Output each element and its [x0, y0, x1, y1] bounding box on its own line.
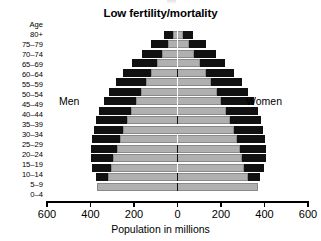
men-inner-bar	[127, 116, 177, 124]
x-tick	[133, 201, 134, 207]
men-inner-bar	[141, 88, 178, 96]
men-inner-bar	[162, 50, 177, 58]
x-tick	[220, 201, 221, 207]
women-inner-bar	[178, 88, 217, 96]
x-tick	[46, 201, 47, 207]
population-pyramid-chart: Low fertility/mortality Age80+75–7970–74…	[0, 0, 321, 241]
age-tick-label: 50–54	[0, 90, 46, 100]
x-tick-label: 400	[71, 208, 111, 220]
x-tick-label: 600	[288, 208, 321, 220]
women-inner-bar	[178, 183, 259, 191]
pyramid-row	[47, 144, 308, 154]
pyramid-row	[47, 68, 308, 78]
pyramid-row	[47, 182, 308, 192]
pyramid-row	[47, 49, 308, 59]
women-inner-bar	[178, 126, 234, 134]
women-inner-bar	[178, 164, 245, 172]
pyramid-row	[47, 173, 308, 183]
age-tick-label: 80+	[0, 30, 46, 40]
age-tick-label: 70–74	[0, 50, 46, 60]
x-tick	[264, 201, 265, 207]
men-inner-bar	[113, 154, 177, 162]
pyramid-row	[47, 106, 308, 116]
age-tick-label: 30–34	[0, 130, 46, 140]
men-inner-bar	[111, 164, 177, 172]
chart-title: Low fertility/mortality	[0, 7, 321, 19]
women-inner-bar	[178, 145, 240, 153]
women-inner-bar	[178, 31, 184, 39]
women-inner-bar	[178, 40, 189, 48]
age-tick-label: 25–29	[0, 140, 46, 150]
x-tick-label: 200	[114, 208, 154, 220]
x-tick	[90, 201, 91, 207]
pyramid-row	[47, 154, 308, 164]
women-inner-bar	[178, 69, 206, 77]
men-inner-bar	[117, 145, 178, 153]
cropped-edge-artifact	[167, 0, 176, 4]
age-axis-title: Age	[0, 20, 46, 30]
women-inner-bar	[178, 154, 243, 162]
women-inner-bar	[178, 97, 222, 105]
age-axis-labels: Age80+75–7970–7465–6960–6455–5950–5445–4…	[0, 20, 46, 200]
pyramid-row	[47, 40, 308, 50]
women-inner-bar	[178, 59, 201, 67]
men-inner-bar	[136, 97, 178, 105]
x-tick	[307, 201, 308, 207]
women-inner-bar	[178, 78, 212, 86]
women-label: Women	[246, 95, 282, 107]
age-tick-label: 20–24	[0, 150, 46, 160]
age-tick-label: 5–9	[0, 180, 46, 190]
men-inner-bar	[131, 107, 177, 115]
x-tick-label: 600	[27, 208, 67, 220]
pyramid-row	[47, 135, 308, 145]
women-inner-bar	[178, 116, 230, 124]
x-axis-title: Population in millions	[0, 223, 321, 235]
age-tick-label: 60–64	[0, 70, 46, 80]
age-tick-label: 0–4	[0, 190, 46, 200]
x-tick-label: 200	[201, 208, 241, 220]
age-tick-label: 35–39	[0, 120, 46, 130]
men-inner-bar	[151, 69, 177, 77]
men-inner-bar	[108, 173, 178, 181]
pyramid-row	[47, 59, 308, 69]
men-label: Men	[59, 95, 79, 107]
age-tick-label: 10–14	[0, 170, 46, 180]
pyramid-row	[47, 163, 308, 173]
age-tick-label: 15–19	[0, 160, 46, 170]
men-inner-bar	[120, 135, 178, 143]
age-tick-label: 65–69	[0, 60, 46, 70]
pyramid-row	[47, 30, 308, 40]
women-inner-bar	[178, 107, 226, 115]
x-tick	[177, 201, 178, 207]
women-inner-bar	[178, 50, 195, 58]
age-tick-label: 75–79	[0, 40, 46, 50]
age-tick-label: 40–44	[0, 110, 46, 120]
pyramid-row	[47, 78, 308, 88]
women-inner-bar	[178, 135, 237, 143]
age-tick-label: 55–59	[0, 80, 46, 90]
men-inner-bar	[123, 126, 177, 134]
age-tick-label: 45–49	[0, 100, 46, 110]
pyramid-row	[47, 125, 308, 135]
men-inner-bar	[97, 183, 177, 191]
men-inner-bar	[168, 40, 178, 48]
x-tick-label: 400	[245, 208, 285, 220]
men-inner-bar	[146, 78, 178, 86]
women-inner-bar	[178, 173, 248, 181]
x-tick-label: 0	[158, 208, 198, 220]
men-inner-bar	[157, 59, 178, 67]
pyramid-row	[47, 116, 308, 126]
plot-area	[47, 30, 308, 201]
